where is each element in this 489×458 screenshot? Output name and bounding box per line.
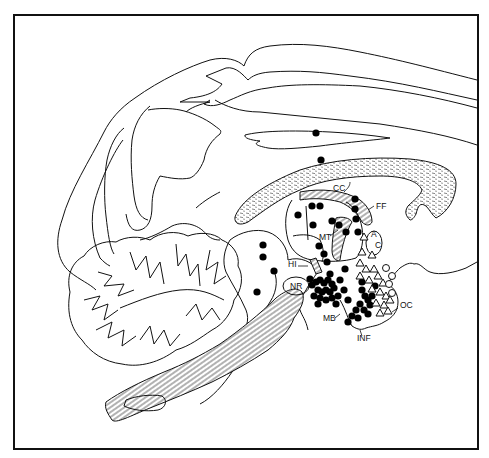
- filled-circle-marker: [344, 318, 351, 325]
- filled-circle-marker: [368, 292, 375, 299]
- filled-circle-marker: [342, 228, 349, 235]
- filled-circle-marker: [354, 228, 361, 235]
- label-oc: OC: [400, 300, 413, 310]
- label-ac_a: A: [371, 229, 377, 239]
- filled-circle-marker: [259, 241, 266, 248]
- filled-circle-marker: [354, 314, 361, 321]
- filled-circle-marker: [259, 253, 266, 260]
- filled-circle-marker: [317, 156, 324, 163]
- brain-sagittal-diagram: CCFFMTACHINRMBINFOC: [0, 0, 489, 458]
- filled-circle-marker: [308, 202, 315, 209]
- open-triangle-marker: [372, 299, 380, 306]
- filled-circle-marker: [356, 300, 363, 307]
- open-triangle-marker: [356, 272, 364, 279]
- open-triangle-marker: [374, 272, 382, 279]
- filled-circle-marker: [352, 215, 359, 222]
- filled-circle-marker: [316, 202, 323, 209]
- label-hi: HI: [288, 259, 297, 269]
- label-ac_c: C: [375, 240, 381, 250]
- open-triangle-marker: [358, 248, 366, 255]
- open-triangle-marker: [376, 288, 384, 295]
- filled-circle-marker: [253, 288, 260, 295]
- filled-circle-marker: [315, 242, 322, 249]
- filled-circle-marker: [334, 292, 341, 299]
- label-cc: CC: [333, 183, 345, 193]
- label-mt: MT: [319, 232, 331, 242]
- filled-circle-marker: [364, 310, 371, 317]
- filled-circle-marker: [294, 211, 301, 218]
- filled-circle-marker: [351, 205, 358, 212]
- open-circle-marker: [389, 290, 396, 297]
- filled-circle-marker: [335, 221, 342, 228]
- filled-circle-marker: [340, 286, 347, 293]
- filled-circle-marker: [309, 221, 316, 228]
- filled-circle-marker: [320, 250, 327, 257]
- filled-circle-marker: [314, 300, 321, 307]
- open-triangle-marker: [376, 309, 384, 316]
- open-circle-marker: [386, 281, 393, 288]
- open-circle-marker: [383, 265, 390, 272]
- open-triangle-marker: [365, 276, 373, 283]
- filled-circle-marker: [341, 265, 348, 272]
- filled-circle-marker: [323, 258, 330, 265]
- filled-circle-marker: [336, 276, 343, 283]
- filled-circle-marker: [270, 267, 277, 274]
- open-circle-marker: [389, 273, 396, 280]
- filled-circle-marker: [328, 217, 335, 224]
- filled-circle-marker: [312, 129, 319, 136]
- open-triangle-marker: [370, 265, 378, 272]
- cerebellum: [69, 233, 242, 366]
- filled-circle-marker: [330, 284, 337, 291]
- label-nr: NR: [290, 281, 302, 291]
- label-mb: MB: [323, 313, 336, 323]
- filled-circle-marker: [326, 270, 333, 277]
- filled-circle-marker: [351, 195, 358, 202]
- label-inf: INF: [357, 333, 371, 343]
- filled-circle-marker: [332, 300, 339, 307]
- filled-circle-marker: [306, 275, 313, 282]
- label-ff: FF: [376, 201, 386, 211]
- open-triangle-marker: [356, 259, 364, 266]
- filled-circle-marker: [352, 306, 359, 313]
- filled-circle-marker: [344, 296, 351, 303]
